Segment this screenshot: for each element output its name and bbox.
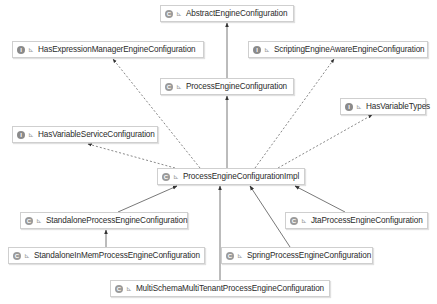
class-node-has-expression-manager-engine-configuration[interactable]: I ⊾ HasExpressionManagerEngineConfigurat…	[12, 41, 204, 58]
implements-edge-n6-n2	[255, 59, 334, 168]
class-node-process-engine-configuration[interactable]: C ⊾ ProcessEngineConfiguration	[160, 78, 294, 95]
class-name-label: HasVariableTypes	[366, 102, 430, 111]
class-node-abstract-engine-configuration[interactable]: C ⊾ AbstractEngineConfiguration	[160, 5, 294, 22]
class-node-standalone-process-engine-configuration[interactable]: C ⊾ StandaloneProcessEngineConfiguration	[20, 212, 188, 229]
visibility-icon: ⊾	[356, 103, 362, 111]
class-icon: C	[13, 252, 21, 260]
class-name-label: HasExpressionManagerEngineConfiguration	[38, 45, 196, 54]
visibility-icon: ⊾	[176, 83, 182, 91]
implements-edge-n6-n1	[113, 59, 200, 168]
class-name-label: MultiSchemaMultiTenantProcessEngineConfi…	[136, 284, 324, 293]
class-node-jta-process-engine-configuration[interactable]: C ⊾ JtaProcessEngineConfiguration	[285, 212, 428, 229]
class-name-label: StandaloneProcessEngineConfiguration	[46, 216, 188, 225]
interface-icon: I	[253, 46, 261, 54]
class-node-standalone-in-mem-process-engine-configuration[interactable]: C ⊾ StandaloneInMemProcessEngineConfigur…	[8, 247, 205, 264]
class-name-label: AbstractEngineConfiguration	[186, 9, 288, 18]
class-node-multi-schema-multi-tenant-process-engine-configuration[interactable]: C ⊾ MultiSchemaMultiTenantProcessEngineC…	[110, 280, 330, 297]
interface-icon: I	[17, 46, 25, 54]
class-icon: C	[165, 10, 173, 18]
extends-edge-n10-n6	[250, 186, 290, 247]
class-name-label: StandaloneInMemProcessEngineConfiguratio…	[34, 251, 200, 260]
visibility-icon: ⊾	[173, 173, 179, 181]
class-node-spring-process-engine-configuration[interactable]: C ⊾ SpringProcessEngineConfiguration	[221, 247, 373, 264]
class-name-label: ProcessEngineConfigurationImpl	[183, 172, 299, 181]
visibility-icon: ⊾	[237, 252, 243, 260]
visibility-icon: ⊾	[28, 131, 34, 139]
interface-icon: I	[345, 103, 353, 111]
class-name-label: SpringProcessEngineConfiguration	[247, 251, 371, 260]
implements-edge-n6-n4	[278, 115, 372, 168]
class-node-scripting-engine-aware-engine-configuration[interactable]: I ⊾ ScriptingEngineAwareEngineConfigurat…	[248, 41, 428, 58]
extends-edge-n8-n6	[295, 186, 345, 212]
class-node-has-variable-service-configuration[interactable]: I ⊾ HasVariableServiceConfiguration	[12, 126, 158, 143]
visibility-icon: ⊾	[176, 10, 182, 18]
class-node-process-engine-configuration-impl[interactable]: C ⊾ ProcessEngineConfigurationImpl	[157, 168, 305, 185]
class-icon: C	[165, 83, 173, 91]
class-name-label: HasVariableServiceConfiguration	[38, 130, 155, 139]
interface-icon: I	[17, 131, 25, 139]
class-name-label: JtaProcessEngineConfiguration	[311, 216, 423, 225]
class-name-label: ScriptingEngineAwareEngineConfiguration	[274, 45, 425, 54]
implements-edge-n6-n5	[88, 144, 175, 168]
class-icon: C	[115, 285, 123, 293]
class-icon: C	[25, 217, 33, 225]
class-icon: C	[290, 217, 298, 225]
visibility-icon: ⊾	[264, 46, 270, 54]
visibility-icon: ⊾	[301, 217, 307, 225]
visibility-icon: ⊾	[28, 46, 34, 54]
visibility-icon: ⊾	[24, 252, 30, 260]
class-node-has-variable-types[interactable]: I ⊾ HasVariableTypes	[340, 98, 426, 115]
extends-edge-n7-n6	[118, 186, 177, 212]
uml-diagram-canvas: C ⊾ AbstractEngineConfiguration I ⊾ HasE…	[0, 0, 437, 304]
class-icon: C	[162, 173, 170, 181]
class-icon: C	[226, 252, 234, 260]
visibility-icon: ⊾	[36, 217, 42, 225]
class-name-label: ProcessEngineConfiguration	[186, 82, 287, 91]
visibility-icon: ⊾	[126, 285, 132, 293]
